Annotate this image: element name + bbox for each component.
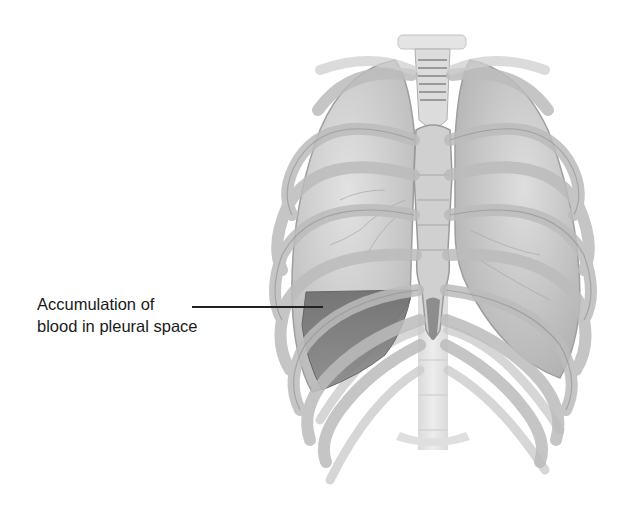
annotation-leader-line <box>192 306 323 308</box>
annotation-label-blood-accumulation: Accumulation of blood in pleural space <box>37 293 198 337</box>
annotation-label-line-1: Accumulation of <box>37 293 198 315</box>
annotation-label-line-2: blood in pleural space <box>37 315 198 337</box>
ribcage-lungs-illustration <box>0 0 637 508</box>
